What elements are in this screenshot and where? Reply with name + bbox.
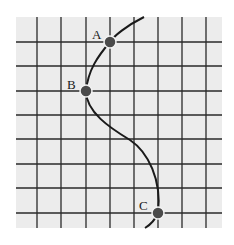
point-label: A: [92, 27, 102, 42]
point-marker: [104, 36, 116, 48]
grid-diagram: ABC: [0, 0, 234, 245]
point-label: B: [67, 77, 76, 92]
grid-background: [16, 17, 222, 228]
point-marker: [80, 85, 92, 97]
point-marker: [152, 207, 164, 219]
point-label: C: [139, 198, 148, 213]
